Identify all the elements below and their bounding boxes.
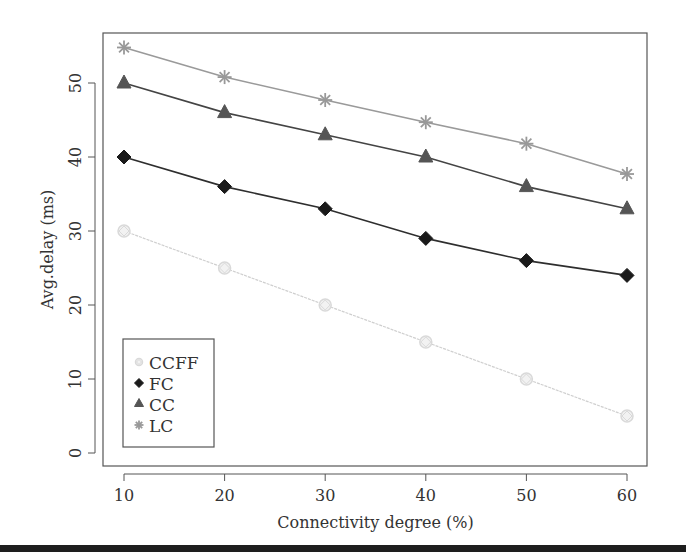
x-tick-label: 60 xyxy=(617,486,637,505)
series-line-lc xyxy=(124,47,627,174)
bottom-divider-bar xyxy=(0,545,686,552)
legend: CCFFFCCCLC xyxy=(123,339,214,447)
x-axis-title: Connectivity degree (%) xyxy=(277,513,473,532)
series-points-fc xyxy=(117,150,634,282)
line-chart: 102030405060 01020304050 Connectivity de… xyxy=(0,0,686,558)
legend-label: CC xyxy=(149,395,175,415)
x-axis: 102030405060 xyxy=(114,474,637,505)
star-marker-icon xyxy=(117,40,131,54)
x-tick-label: 30 xyxy=(315,486,335,505)
star-marker-icon xyxy=(620,167,634,181)
diamond-marker-icon xyxy=(218,180,232,194)
diamond-marker-icon xyxy=(117,150,131,164)
legend-label: LC xyxy=(149,416,173,436)
chart: 102030405060 01020304050 Connectivity de… xyxy=(0,0,686,558)
legend-label: FC xyxy=(149,374,174,394)
diamond-marker-icon xyxy=(519,254,533,268)
y-axis: 01020304050 xyxy=(66,73,95,458)
star-marker-icon xyxy=(519,137,533,151)
series-line-cc xyxy=(124,83,627,209)
y-tick-label: 30 xyxy=(66,221,85,241)
legend-label: CCFF xyxy=(149,353,199,373)
diamond-marker-icon xyxy=(620,268,634,282)
y-tick-label: 20 xyxy=(66,295,85,315)
diamond-open-marker-icon xyxy=(621,410,633,422)
star-marker-icon xyxy=(135,421,144,430)
diamond-open-marker-icon xyxy=(319,299,331,311)
diamond-open-marker-icon xyxy=(118,225,130,237)
triangle-marker-icon xyxy=(117,75,131,88)
star-marker-icon xyxy=(419,115,433,129)
series-line-fc xyxy=(124,157,627,275)
x-tick-label: 40 xyxy=(416,486,436,505)
star-marker-icon xyxy=(318,93,332,107)
diamond-marker-icon xyxy=(318,202,332,216)
diamond-marker-icon xyxy=(419,231,433,245)
star-marker-icon xyxy=(218,70,232,84)
x-tick-label: 20 xyxy=(214,486,234,505)
diamond-open-marker-icon xyxy=(420,336,432,348)
y-tick-label: 0 xyxy=(66,448,85,458)
y-tick-label: 40 xyxy=(66,147,85,167)
x-tick-label: 10 xyxy=(114,486,134,505)
x-tick-label: 50 xyxy=(516,486,536,505)
y-axis-title: Avg.delay (ms) xyxy=(38,190,57,311)
y-tick-label: 50 xyxy=(66,73,85,93)
diamond-open-marker-icon xyxy=(520,373,532,385)
y-tick-label: 10 xyxy=(66,369,85,389)
diamond-open-marker-icon xyxy=(219,262,231,274)
diamond-open-marker-icon xyxy=(136,359,143,366)
